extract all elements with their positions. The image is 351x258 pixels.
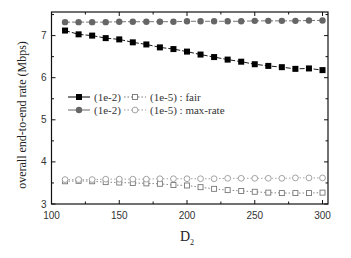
x-tick-label: 300	[314, 210, 331, 221]
legend-label: (1e-2)	[94, 91, 121, 104]
y-tick-label: 4	[41, 156, 47, 167]
x-tick-label: 200	[179, 210, 196, 221]
series--1e-2-fair	[62, 28, 325, 74]
x-tick-label: 250	[246, 210, 263, 221]
series--1e-5-fair	[63, 178, 325, 195]
legend-label: (1e-5) : max-rate	[150, 104, 225, 117]
x-axis: 100150200250300	[43, 12, 331, 221]
x-axis-label: D2	[180, 229, 194, 247]
y-tick-label: 5	[41, 114, 47, 125]
y-tick-label: 7	[41, 30, 47, 41]
legend-label: (1e-2)	[94, 104, 121, 117]
legend-entry: (1e-2)(1e-5) : max-rate	[68, 104, 225, 117]
legend: (1e-2)(1e-5) : fair(1e-2)(1e-5) : max-ra…	[68, 91, 225, 117]
legend-entry: (1e-2)(1e-5) : fair	[68, 91, 201, 104]
series--1e-5-max-rate	[62, 175, 325, 182]
y-tick-label: 3	[41, 199, 47, 210]
x-tick-label: 150	[111, 210, 128, 221]
y-tick-label: 6	[41, 72, 47, 83]
y-axis-label: overall end-to-end rate (Mbps)	[15, 41, 29, 189]
legend-label: (1e-5) : fair	[150, 91, 201, 104]
series--1e-2-max-rate	[62, 17, 326, 25]
line-chart: 100150200250300 34567 (1e-2)(1e-5) : fai…	[0, 0, 351, 258]
x-tick-label: 100	[43, 210, 60, 221]
